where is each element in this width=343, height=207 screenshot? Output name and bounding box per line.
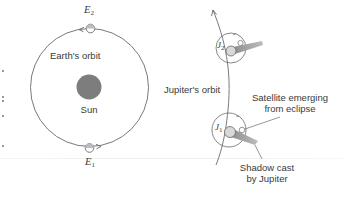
sun-label: Sun xyxy=(81,104,98,115)
satellite-leader-line xyxy=(245,117,280,129)
jupiter-j1-label: J1 xyxy=(215,122,223,134)
jupiter-icon xyxy=(226,46,236,56)
satellite-annotation-line2: from eclipse xyxy=(264,103,315,114)
jupiter-orbit-label: Jupiter's orbit xyxy=(164,84,220,95)
shadow-annotation-line2: by Jupiter xyxy=(246,173,287,184)
diagram-canvas: E2 E1 Earth's orbit Sun Jupiter's orbit … xyxy=(0,0,343,207)
satellite-annotation-line1: Satellite emerging xyxy=(252,92,328,103)
earth-e1-label: E1 xyxy=(85,156,95,169)
satellite-direction-arrow-icon xyxy=(236,116,239,117)
satellite-icon xyxy=(239,127,245,133)
earth-e1-icon xyxy=(85,144,94,153)
sun-icon xyxy=(77,75,102,100)
orbit-direction-arrow-icon xyxy=(79,27,84,32)
shadow-leader-line xyxy=(255,145,262,159)
earth-orbit-label: Earth's orbit xyxy=(50,50,100,61)
jupiter-icon xyxy=(225,127,236,138)
jupiter-j2-label: J2 xyxy=(217,40,225,52)
satellite-icon xyxy=(238,40,243,45)
shadow-annotation-line1: Shadow cast xyxy=(240,162,294,173)
earth-e2-label: E2 xyxy=(84,4,94,17)
earth-e2-icon xyxy=(86,24,95,33)
shadow-cone xyxy=(233,41,263,54)
